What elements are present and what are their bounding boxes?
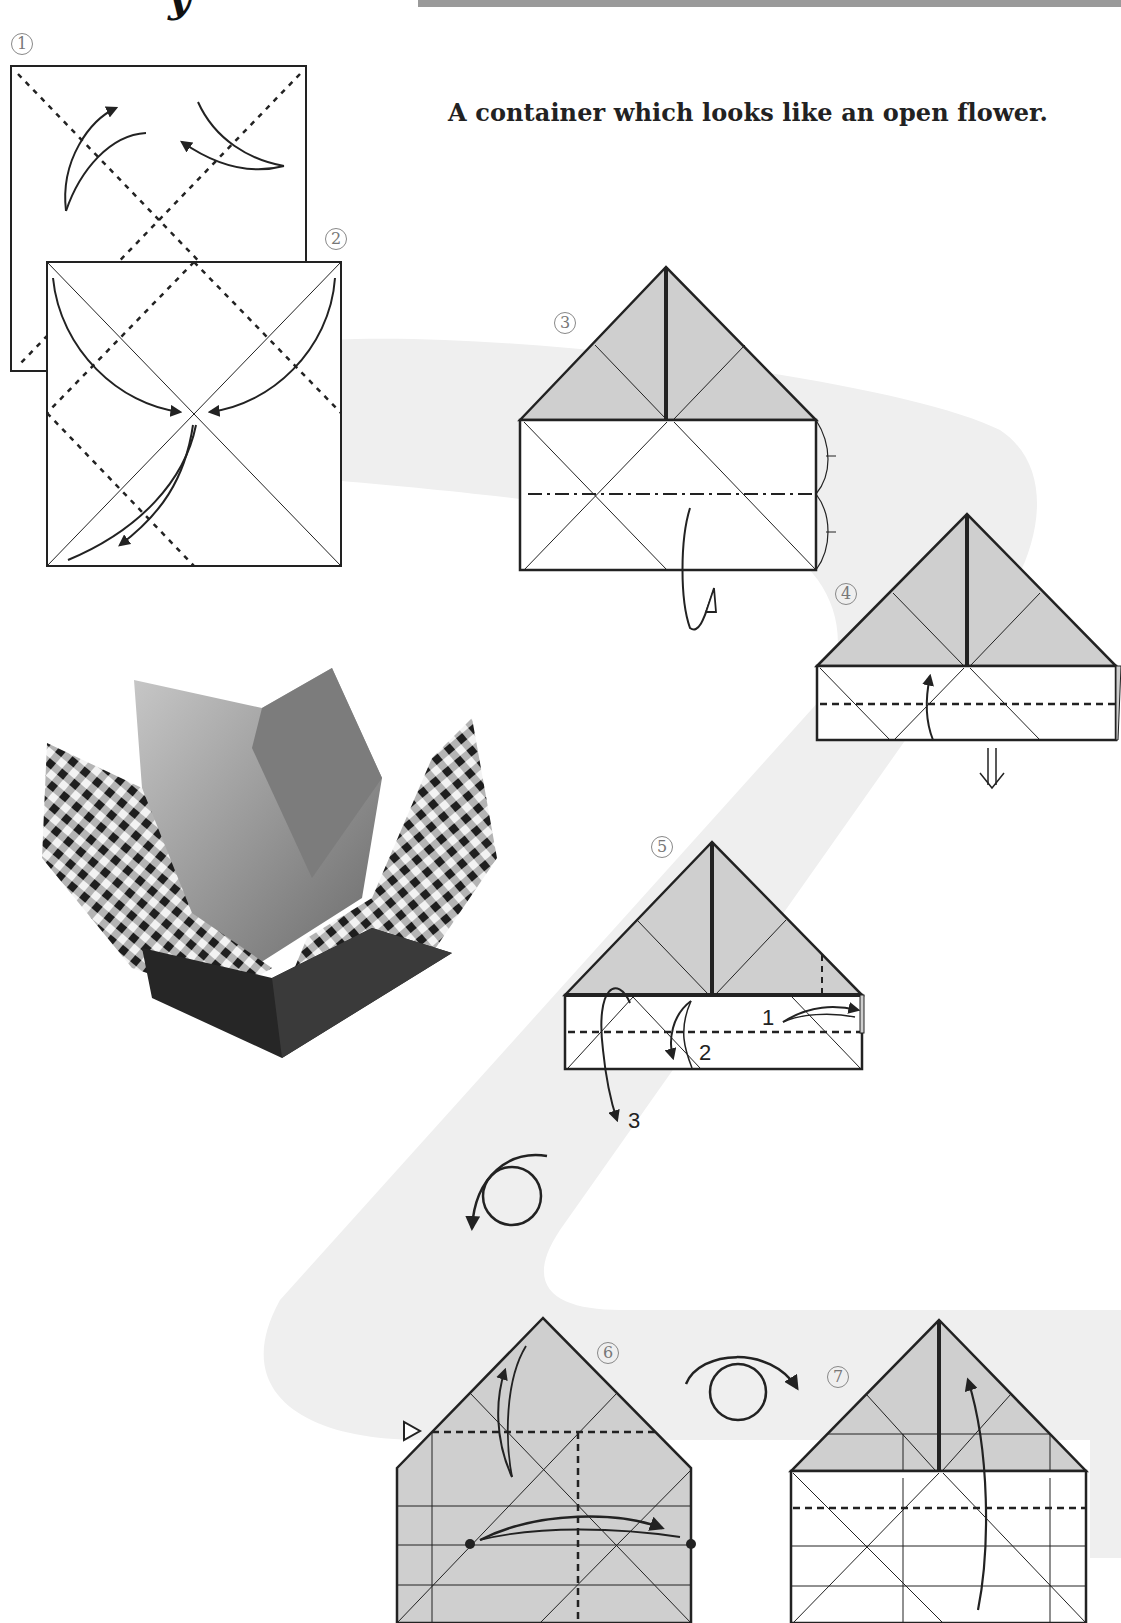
step-6-diagram [397,1318,696,1623]
finished-model-photo [42,668,512,1068]
step-5-annotation-3: 3 [628,1108,640,1134]
step-5-annotation-1: 1 [762,1005,774,1031]
turn-over-icon [472,1155,547,1228]
turn-over-icon [686,1357,797,1420]
step-4-diagram [817,514,1121,788]
step-7-diagram [791,1320,1086,1623]
step-5-diagram [565,842,864,1120]
step-2-diagram [47,262,341,566]
step-5-annotation-2: 2 [699,1040,711,1066]
push-in-triangle-icon [404,1422,420,1440]
step-3-diagram [520,267,836,629]
double-down-arrow-icon [980,748,1004,788]
